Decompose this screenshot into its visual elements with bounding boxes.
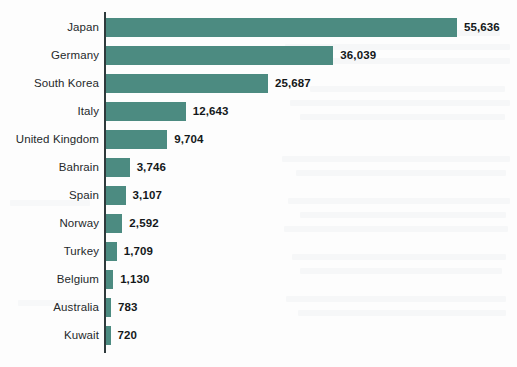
bar-track: 25,687 [106,69,517,97]
category-label: United Kingdom [0,133,106,145]
bar [106,298,111,317]
bar-value-label: 12,643 [193,105,229,117]
bar-row: South Korea25,687 [0,69,517,97]
category-label: Australia [0,301,106,313]
category-label: Germany [0,49,106,61]
bar-value-label: 783 [118,301,138,313]
bar-row: Turkey1,709 [0,237,517,265]
bar [106,158,130,177]
bar [106,242,117,261]
bar-track: 1,130 [106,265,517,293]
bar-track: 55,636 [106,13,517,41]
bar [106,130,167,149]
bar [106,102,186,121]
category-label: Italy [0,105,106,117]
bar [106,74,268,93]
category-label: Belgium [0,273,106,285]
bar-row: Spain3,107 [0,181,517,209]
bar [106,270,113,289]
category-axis-line [104,12,106,353]
bar-row: Australia783 [0,293,517,321]
category-label: Spain [0,189,106,201]
bar-value-label: 2,592 [129,217,158,229]
category-label: South Korea [0,77,106,89]
category-label: Japan [0,21,106,33]
category-label: Turkey [0,245,106,257]
bar-value-label: 36,039 [340,49,376,61]
plot-area: Japan55,636Germany36,039South Korea25,68… [0,0,517,367]
bar-track: 12,643 [106,97,517,125]
bar-track: 720 [106,321,517,349]
bar-value-label: 3,107 [133,189,162,201]
bar-chart-figure: Japan55,636Germany36,039South Korea25,68… [0,0,517,367]
bar-value-label: 9,704 [174,133,203,145]
bar-value-label: 3,746 [137,161,166,173]
bar [106,18,457,37]
bar [106,46,333,65]
bar-row: Italy12,643 [0,97,517,125]
bar-track: 3,746 [106,153,517,181]
bar-rows: Japan55,636Germany36,039South Korea25,68… [0,13,517,349]
bar-track: 3,107 [106,181,517,209]
category-label: Bahrain [0,161,106,173]
bar-row: Germany36,039 [0,41,517,69]
bar-track: 783 [106,293,517,321]
bar-row: Kuwait720 [0,321,517,349]
bar-value-label: 1,130 [120,273,149,285]
bar-row: United Kingdom9,704 [0,125,517,153]
bar-value-label: 720 [118,329,138,341]
category-label: Kuwait [0,329,106,341]
bar-track: 1,709 [106,237,517,265]
bar-track: 2,592 [106,209,517,237]
bar-row: Belgium1,130 [0,265,517,293]
bar-value-label: 25,687 [275,77,311,89]
bar-row: Bahrain3,746 [0,153,517,181]
bar [106,214,122,233]
bar-track: 9,704 [106,125,517,153]
bar-value-label: 1,709 [124,245,153,257]
bar [106,326,111,345]
bar-row: Japan55,636 [0,13,517,41]
bar-value-label: 55,636 [464,21,500,33]
bar-track: 36,039 [106,41,517,69]
bar-row: Norway2,592 [0,209,517,237]
category-label: Norway [0,217,106,229]
bar [106,186,126,205]
